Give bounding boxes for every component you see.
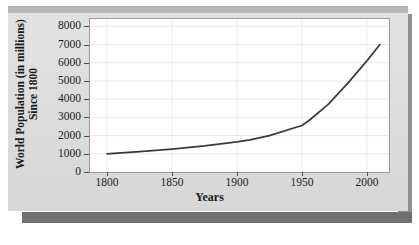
y-tick-label: 4000	[35, 93, 81, 104]
x-tick-label: 1900	[207, 176, 267, 188]
figure-container: World Population (in millions) Since 180…	[0, 0, 419, 245]
panel-shadow-bottom	[22, 212, 412, 223]
panel-top-strip	[8, 6, 408, 13]
data-line-chart	[90, 19, 389, 172]
y-tick-mark	[84, 63, 89, 64]
x-tick-mark	[107, 172, 108, 176]
y-tick-label: 0	[35, 166, 81, 177]
y-axis-title-line1: World Population (in millions)	[14, 4, 27, 184]
x-tick-mark	[302, 172, 303, 176]
y-tick-mark	[84, 26, 89, 27]
y-tick-mark	[84, 81, 89, 82]
y-tick-mark	[84, 136, 89, 137]
y-tick-label: 2000	[35, 130, 81, 141]
x-axis-title: Years	[0, 190, 419, 205]
x-tick-mark	[172, 172, 173, 176]
y-tick-mark	[84, 154, 89, 155]
y-tick-mark	[84, 99, 89, 100]
plot-area	[89, 18, 390, 173]
x-tick-mark	[237, 172, 238, 176]
x-tick-label: 1850	[142, 176, 202, 188]
y-tick-label: 8000	[35, 20, 81, 31]
y-tick-label: 5000	[35, 75, 81, 86]
x-tick-label: 2000	[337, 176, 397, 188]
vertical-gridlines	[107, 19, 367, 172]
y-tick-label: 6000	[35, 57, 81, 68]
y-tick-mark	[84, 172, 89, 173]
horizontal-gridlines	[90, 26, 389, 154]
y-tick-mark	[84, 45, 89, 46]
y-tick-label: 7000	[35, 39, 81, 50]
x-tick-label: 1950	[272, 176, 332, 188]
y-tick-label: 1000	[35, 148, 81, 159]
x-tick-mark	[367, 172, 368, 176]
y-tick-mark	[84, 117, 89, 118]
y-tick-label: 3000	[35, 111, 81, 122]
x-tick-label: 1800	[77, 176, 137, 188]
